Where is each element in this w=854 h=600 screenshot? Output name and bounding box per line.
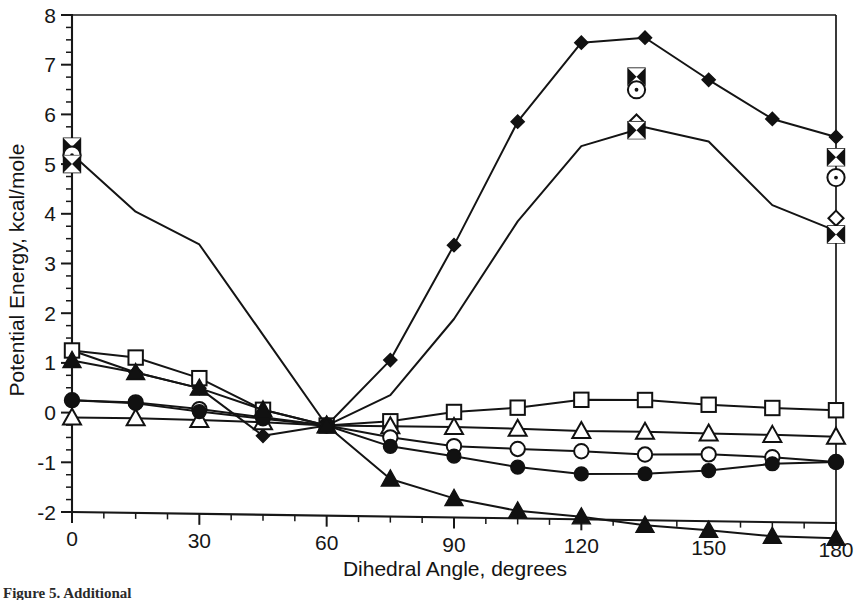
marker-filled-diamond — [702, 73, 715, 86]
x-tick-label: 30 — [188, 529, 211, 552]
marker-filled-diamond — [638, 31, 651, 44]
marker-filled-circle — [129, 396, 143, 410]
marker-open-diamond — [828, 211, 843, 226]
marker-filled-circle — [574, 467, 588, 481]
y-tick-label: 0 — [44, 401, 56, 424]
marker-filled-circle — [702, 464, 716, 478]
y-tick-label: 1 — [44, 351, 56, 374]
marker-open-square — [638, 393, 652, 407]
marker-x-square — [64, 156, 81, 173]
y-tick-label: 3 — [44, 252, 56, 275]
marker-filled-circle — [511, 460, 525, 474]
marker-x-square — [628, 122, 645, 139]
series-line-dotted-circle — [72, 127, 836, 425]
marker-open-circle — [638, 447, 652, 461]
marker-open-triangle — [63, 409, 81, 425]
y-tick-label: 2 — [44, 302, 56, 325]
marker-filled-circle — [765, 457, 779, 471]
overlay-cluster-lower-mid — [628, 115, 645, 139]
y-tick-label: 5 — [44, 153, 56, 176]
x-tick-label: 90 — [442, 533, 465, 556]
marker-open-square — [574, 393, 588, 407]
y-tick-label: 4 — [44, 202, 56, 225]
marker-filled-diamond — [447, 239, 460, 252]
x-tick-label: 150 — [691, 536, 726, 559]
marker-filled-diamond — [829, 130, 842, 143]
marker-open-square — [701, 398, 715, 412]
marker-open-circle — [510, 442, 524, 456]
marker-open-circle — [574, 444, 588, 458]
marker-open-circle — [701, 447, 715, 461]
marker-open-square — [829, 403, 843, 417]
y-tick-label: 6 — [44, 103, 56, 126]
overlay-cluster-right-lower — [828, 211, 845, 243]
data-series-group — [63, 31, 845, 545]
marker-x-square — [828, 149, 845, 166]
marker-filled-circle — [192, 405, 206, 419]
marker-dotted-circle — [827, 169, 844, 186]
axis-tick-labels: -2-10123456780306090120150180 — [37, 4, 853, 562]
series-filled-diamond — [65, 31, 842, 442]
x-axis-title: Dihedral Angle, degrees — [343, 557, 567, 580]
y-tick-label: -2 — [37, 501, 56, 524]
overlay-cluster-left — [63, 138, 80, 172]
overlay-cluster-upper-mid — [628, 68, 645, 98]
x-tick-label: 60 — [315, 531, 338, 554]
marker-filled-circle — [638, 467, 652, 481]
marker-x-square — [828, 226, 845, 243]
marker-open-square — [510, 400, 524, 414]
marker-dotted-circle — [628, 81, 645, 98]
x-tick-label: 180 — [818, 538, 853, 561]
y-axis-title: Potential Energy, kcal/mole — [5, 144, 28, 397]
series-line-filled-diamond — [72, 38, 836, 436]
marker-open-square — [765, 401, 779, 415]
marker-filled-circle — [65, 393, 79, 407]
marker-filled-diamond — [766, 112, 779, 125]
marker-filled-circle — [383, 439, 397, 453]
overlay-marker-group — [63, 68, 844, 243]
figure-caption: Figure 5. Additional — [3, 585, 132, 600]
marker-filled-circle — [447, 449, 461, 463]
x-tick-label: 120 — [564, 534, 599, 557]
series-dotted-circle — [72, 127, 836, 425]
x-tick-label: 0 — [66, 527, 78, 550]
marker-filled-triangle — [381, 470, 399, 486]
y-tick-label: 8 — [44, 4, 56, 27]
marker-filled-circle — [829, 455, 843, 469]
y-tick-label: 7 — [44, 53, 56, 76]
y-tick-label: -1 — [37, 451, 56, 474]
